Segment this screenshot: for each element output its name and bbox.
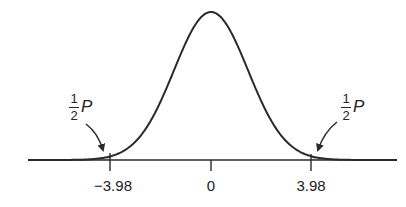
left-fraction-denominator: 2: [68, 108, 80, 123]
left-fraction-numerator: 1: [68, 91, 80, 106]
right-fraction-numerator: 1: [340, 91, 352, 106]
left-fraction-variable: P: [81, 97, 92, 117]
right-fraction-variable: P: [353, 97, 364, 117]
tick-label-left: −3.98: [94, 177, 132, 194]
tick-label-right: 3.98: [296, 177, 325, 194]
right-arrow: [318, 122, 337, 150]
tick-label-center: 0: [207, 177, 215, 194]
left-arrow: [86, 124, 103, 150]
bell-curve: [28, 12, 397, 160]
right-fraction-denominator: 2: [340, 108, 352, 123]
